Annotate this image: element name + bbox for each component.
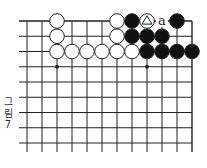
white-stone [50,29,65,44]
white-stone [80,44,95,59]
white-stone [110,14,125,29]
figure-caption: 그 림 7 [2,96,14,131]
black-stone [125,14,140,29]
black-stone [155,44,170,59]
go-board-diagram: a [0,0,207,168]
black-stone [170,14,185,29]
white-stone [65,44,80,59]
white-stone [140,14,155,29]
white-stone [110,29,125,44]
white-stone [95,44,110,59]
star-point [145,65,149,69]
white-stone [50,44,65,59]
white-stone [125,44,140,59]
black-stone [125,29,140,44]
black-stone [140,29,155,44]
caption-line-2: 림 [2,108,14,120]
point-labels: a [156,13,168,28]
white-stone [50,14,65,29]
caption-line-3: 7 [2,119,14,131]
black-stone [140,44,155,59]
white-stone [110,44,125,59]
caption-line-1: 그 [2,96,14,108]
star-point [55,65,59,69]
black-stone [170,44,185,59]
black-stone [185,44,200,59]
black-stone [155,29,170,44]
point-label-a: a [158,13,166,28]
